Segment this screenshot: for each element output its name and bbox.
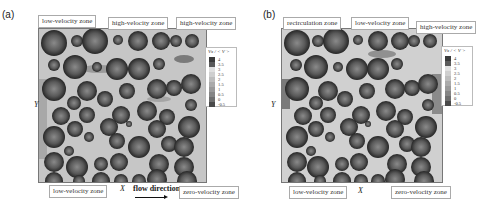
velocity-field-plot-a <box>38 28 207 183</box>
zone-label-bottom-left: low-velocity zone <box>49 185 107 198</box>
panel-letter-b: (b) <box>263 9 275 20</box>
y-axis-label: Y <box>271 100 275 109</box>
tick: -0.5 <box>218 102 225 107</box>
colorbar-legend-a: Vx / < V > 4 3.5 3 2.5 2 1.5 1 0.5 0 -0.… <box>205 47 237 107</box>
zone-label-top-left: recirculation zone <box>283 17 341 30</box>
zone-label-top-right: high-velocity zone <box>416 21 476 34</box>
tick: -0.5 <box>454 101 461 106</box>
y-axis-label: Y <box>34 100 38 109</box>
colorbar-ticks: 4 3.5 3 2.5 2 1.5 1 0.5 0 -0.5 <box>218 57 225 107</box>
velocity-field-plot-b <box>281 28 443 183</box>
panel-b: (b) <box>241 0 482 210</box>
zone-label-top-left: low-velocity zone <box>38 15 96 28</box>
zone-label-top-right: high-velocity zone <box>176 17 236 30</box>
zone-label-top-mid: high-velocity zone <box>108 17 168 30</box>
legend-title: Vx / < V > <box>208 49 229 54</box>
zone-label-bottom-right: zero-velocity zone <box>391 186 451 199</box>
zone-label-bottom-right: zero-velocity zone <box>179 186 239 199</box>
flow-direction-arrow <box>135 197 165 198</box>
colorbar-legend-b: Vx / < V > 4 3.5 3 2.5 2 1.5 1 0.5 0 -0.… <box>441 46 473 106</box>
zone-label-top-mid: low-velocity zone <box>351 17 409 30</box>
x-axis-label: X <box>120 184 125 193</box>
sphere-packing-image-a <box>39 29 206 182</box>
colorbar-ticks: 4 3.5 3 2.5 2 1.5 1 0.5 0 -0.5 <box>454 56 461 106</box>
sphere-packing-image-b <box>282 29 442 182</box>
colorbar <box>445 56 451 106</box>
x-axis-label: X <box>358 186 363 195</box>
zone-label-bottom-left: low-velocity zone <box>289 186 347 199</box>
panel-a: (a) <box>0 0 241 210</box>
panel-letter-a: (a) <box>2 9 14 20</box>
legend-title: Vx / < V > <box>444 48 465 53</box>
flow-direction-label: flow direction <box>133 184 180 193</box>
colorbar <box>209 57 215 107</box>
